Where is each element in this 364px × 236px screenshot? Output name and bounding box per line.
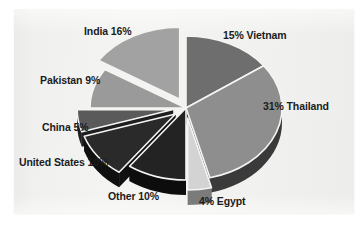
slice-label-thailand: 31% Thailand [263, 101, 329, 112]
slice-label-united-states: United States 10% [19, 157, 108, 168]
slice-label-india: India 16% [84, 26, 132, 37]
pie-chart-graphic [0, 0, 364, 236]
slice-label-pakistan: Pakistan 9% [40, 75, 100, 86]
slice-label-other: Other 10% [108, 191, 159, 202]
slice-label-china: China 5% [42, 122, 88, 133]
pie-slices-group [77, 27, 282, 205]
slice-label-egypt: 4% Egypt [199, 196, 245, 207]
slice-label-vietnam: 15% Vietnam [223, 30, 287, 41]
pie-chart-figure: India 16% 15% Vietnam 31% Thailand 4% Eg… [0, 0, 364, 236]
